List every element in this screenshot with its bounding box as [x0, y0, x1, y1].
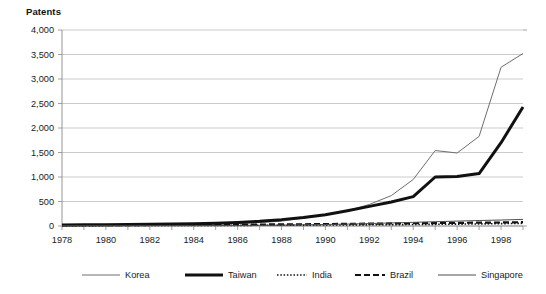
patents-line-chart: Patents 05001,0001,5002,0002,5003,0003,5…: [0, 0, 546, 294]
x-tick-label: 1984: [183, 235, 203, 245]
x-tick-label: 1978: [52, 235, 72, 245]
legend-label-india: India: [312, 270, 333, 280]
x-tick-label: 1986: [227, 235, 247, 245]
y-tick-label: 500: [39, 197, 54, 207]
x-tick-label: 1990: [315, 235, 335, 245]
x-tick-label: 1996: [447, 235, 467, 245]
x-tick-label: 1992: [359, 235, 379, 245]
x-tick-label: 1988: [271, 235, 291, 245]
x-tick-label: 1980: [96, 235, 116, 245]
y-tick-label: 2,000: [31, 123, 54, 133]
x-tick-label: 1982: [140, 235, 160, 245]
y-tick-label: 1,000: [31, 172, 54, 182]
x-tick-label: 1998: [491, 235, 511, 245]
series-line-taiwan: [62, 107, 523, 225]
legend-label-taiwan: Taiwan: [228, 270, 257, 280]
y-tick-label: 2,500: [31, 99, 54, 109]
y-tick-label: 3,500: [31, 50, 54, 60]
y-tick-label: 4,000: [31, 25, 54, 35]
x-tick-label: 1994: [403, 235, 423, 245]
legend-label-singapore: Singapore: [481, 270, 523, 280]
legend-label-brazil: Brazil: [390, 270, 413, 280]
y-tick-label: 1,500: [31, 148, 54, 158]
y-tick-label: 3,000: [31, 74, 54, 84]
y-tick-label: 0: [49, 221, 54, 231]
chart-canvas: 05001,0001,5002,0002,5003,0003,5004,0001…: [0, 0, 546, 294]
legend-label-korea: Korea: [125, 270, 150, 280]
